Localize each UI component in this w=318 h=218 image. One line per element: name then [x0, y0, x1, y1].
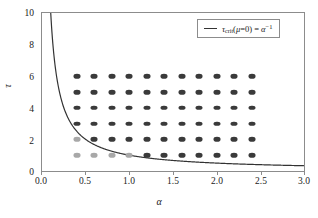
data-point — [73, 137, 80, 142]
data-point — [196, 74, 203, 79]
data-point — [196, 106, 203, 111]
data-point — [161, 121, 168, 126]
ytick-label-6: 6 — [8, 73, 34, 83]
xtick-label-2.5: 2.5 — [244, 177, 278, 187]
data-point — [73, 153, 80, 158]
data-point — [248, 137, 255, 142]
ytick-label-4: 4 — [8, 105, 34, 115]
data-point — [108, 121, 115, 126]
data-point — [126, 106, 133, 111]
y-axis-title: τ — [2, 84, 13, 88]
data-point — [161, 90, 168, 95]
data-point — [178, 137, 185, 142]
legend-equals-zero: =0 — [240, 24, 249, 34]
data-point — [248, 153, 255, 158]
data-point — [213, 153, 220, 158]
data-point — [91, 74, 98, 79]
data-point — [126, 90, 133, 95]
data-point — [178, 106, 185, 111]
data-point — [161, 74, 168, 79]
data-point — [108, 106, 115, 111]
legend-label: τcrit(μ=0) = α−1 — [222, 23, 273, 34]
data-point — [161, 137, 168, 142]
data-point — [91, 121, 98, 126]
data-point — [126, 74, 133, 79]
xtick-label-2.0: 2.0 — [200, 177, 234, 187]
data-point — [91, 137, 98, 142]
data-point — [231, 74, 238, 79]
figure-root: 10 8 6 4 2 0 0.0 0.5 1.0 1.5 2.0 2.5 3.0… — [0, 0, 318, 218]
legend-crit-subscript: crit — [225, 28, 233, 34]
data-point — [108, 153, 115, 158]
data-point — [196, 90, 203, 95]
data-point — [143, 153, 150, 158]
data-point — [126, 121, 133, 126]
data-point — [231, 153, 238, 158]
data-point — [231, 121, 238, 126]
ytick-label-8: 8 — [8, 41, 34, 51]
legend-equals: = — [254, 24, 259, 34]
data-point — [196, 121, 203, 126]
data-point — [178, 90, 185, 95]
data-point — [143, 137, 150, 142]
data-point — [126, 137, 133, 142]
data-point — [108, 74, 115, 79]
data-point — [248, 74, 255, 79]
data-point — [73, 106, 80, 111]
data-point — [143, 90, 150, 95]
data-point — [231, 106, 238, 111]
data-point — [213, 137, 220, 142]
ytick-label-10: 10 — [8, 9, 34, 19]
data-point — [213, 106, 220, 111]
xtick-label-0.5: 0.5 — [68, 177, 102, 187]
data-point — [178, 153, 185, 158]
legend-exponent: −1 — [266, 23, 273, 30]
data-point — [73, 90, 80, 95]
data-point — [91, 106, 98, 111]
data-point — [248, 90, 255, 95]
data-point — [108, 137, 115, 142]
data-point — [143, 74, 150, 79]
data-point — [73, 121, 80, 126]
data-point — [231, 137, 238, 142]
data-point — [231, 90, 238, 95]
xtick-label-1.0: 1.0 — [112, 177, 146, 187]
data-point — [213, 74, 220, 79]
legend-close-paren: ) — [249, 24, 252, 34]
data-point — [196, 153, 203, 158]
data-point — [213, 121, 220, 126]
data-point — [196, 137, 203, 142]
x-axis-title: α — [0, 196, 318, 207]
data-point — [178, 121, 185, 126]
data-point — [161, 153, 168, 158]
legend-box: τcrit(μ=0) = α−1 — [197, 19, 280, 38]
data-point — [178, 74, 185, 79]
data-point — [91, 153, 98, 158]
legend-line-swatch — [204, 28, 217, 29]
data-point — [91, 90, 98, 95]
ytick-label-2: 2 — [8, 137, 34, 147]
data-point — [248, 106, 255, 111]
data-point — [248, 121, 255, 126]
data-point — [161, 106, 168, 111]
xtick-label-3.0: 3.0 — [287, 177, 318, 187]
xtick-label-1.5: 1.5 — [156, 177, 190, 187]
data-point — [126, 153, 133, 158]
data-point — [143, 121, 150, 126]
data-point — [213, 90, 220, 95]
xtick-label-0.0: 0.0 — [24, 177, 58, 187]
data-point — [108, 90, 115, 95]
data-point — [143, 106, 150, 111]
data-point — [73, 74, 80, 79]
